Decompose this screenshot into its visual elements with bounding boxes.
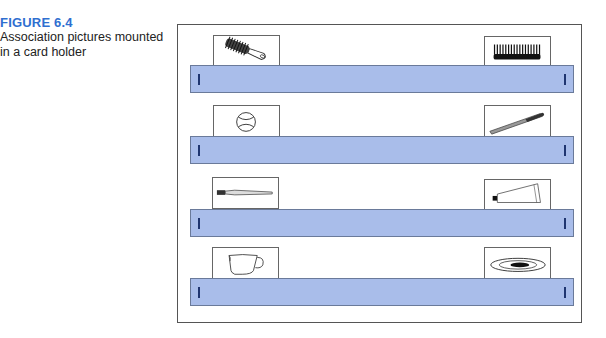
card-baseball-bat	[484, 105, 551, 137]
card-baseball	[213, 105, 280, 137]
saucer-icon	[485, 248, 550, 278]
card-hairbrush	[213, 35, 280, 67]
card-strip-1	[190, 65, 574, 93]
card-saucer	[484, 247, 551, 279]
toothpaste-tube-icon	[485, 180, 550, 210]
strip-tick-right	[564, 74, 566, 85]
comb-icon	[485, 37, 550, 67]
strip-tick-right	[564, 287, 566, 298]
card-strip-4	[190, 278, 574, 306]
strip-tick-left	[198, 218, 200, 229]
strip-tick-right	[564, 218, 566, 229]
strip-tick-right	[564, 145, 566, 156]
card-teacup	[212, 247, 279, 279]
card-toothbrush	[212, 177, 279, 209]
toothbrush-icon	[213, 178, 278, 208]
card-comb	[484, 36, 551, 68]
strip-tick-left	[198, 145, 200, 156]
card-strip-3	[190, 209, 574, 237]
hairbrush-icon	[214, 36, 279, 66]
strip-tick-left	[198, 287, 200, 298]
figure-description: Association pictures mounted in a card h…	[0, 30, 170, 60]
figure-caption: FIGURE 6.4 Association pictures mounted …	[0, 15, 170, 60]
baseball-icon	[214, 106, 279, 136]
baseball-bat-icon	[485, 106, 550, 136]
strip-tick-left	[198, 74, 200, 85]
figure-label: FIGURE 6.4	[0, 15, 170, 30]
card-toothpaste	[484, 179, 551, 211]
teacup-icon	[213, 248, 278, 278]
card-strip-2	[190, 136, 574, 164]
